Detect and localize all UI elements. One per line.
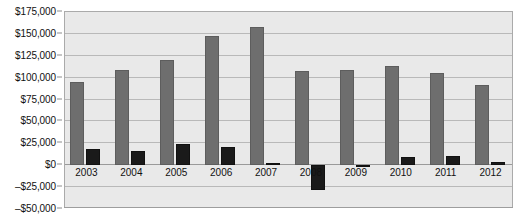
bar-net-income-2010 xyxy=(401,157,415,165)
gridline xyxy=(65,11,512,12)
x-axis-tick-label: 2007 xyxy=(255,167,277,178)
y-axis-tick-mark xyxy=(57,32,62,33)
bar-net-income-2004 xyxy=(131,151,145,165)
bar-revenue-2009 xyxy=(340,70,354,165)
gridline xyxy=(65,142,512,143)
y-axis-tick-mark xyxy=(57,186,62,187)
bar-net-income-2011 xyxy=(446,156,460,165)
x-axis-tick-label: 2010 xyxy=(390,167,412,178)
x-axis-baseline xyxy=(64,207,513,208)
bar-net-income-2007 xyxy=(266,163,280,165)
gridline xyxy=(65,186,512,187)
bar-revenue-2012 xyxy=(475,85,489,166)
bar-net-income-2003 xyxy=(86,149,100,165)
gridline xyxy=(65,33,512,34)
y-axis-tick-label: $100,000 xyxy=(15,71,56,82)
y-axis-tick-label: $0 xyxy=(45,159,56,170)
bar-net-income-2006 xyxy=(221,147,235,165)
y-axis-tick-label: $25,000 xyxy=(21,137,56,148)
bar-chart: $175,000$150,000$125,000$100,000$75,000$… xyxy=(0,0,532,221)
y-axis-tick-label: $150,000 xyxy=(15,27,56,38)
y-axis-tick-mark xyxy=(57,54,62,55)
plot-area xyxy=(64,11,513,208)
y-axis-tick-label: $125,000 xyxy=(15,49,56,60)
x-axis-tick-label: 2005 xyxy=(165,167,187,178)
y-axis-tick-mark xyxy=(57,164,62,165)
y-axis-tick-label: –$25,000 xyxy=(15,181,56,192)
bar-revenue-2005 xyxy=(160,60,174,165)
x-axis-tick-label: 2004 xyxy=(120,167,142,178)
y-axis-tick-label: –$50,000 xyxy=(15,203,56,214)
x-axis-tick-label: 2006 xyxy=(210,167,232,178)
y-axis-tick-mark xyxy=(57,11,62,12)
bar-revenue-2008 xyxy=(295,71,309,166)
bar-revenue-2011 xyxy=(430,73,444,165)
y-axis-tick-label: $75,000 xyxy=(21,93,56,104)
bar-net-income-2012 xyxy=(491,162,505,166)
bar-net-income-2005 xyxy=(176,144,190,165)
y-axis: $175,000$150,000$125,000$100,000$75,000$… xyxy=(0,0,62,221)
bar-revenue-2010 xyxy=(385,66,399,165)
bar-revenue-2007 xyxy=(250,27,264,165)
y-axis-tick-mark xyxy=(57,142,62,143)
gridline xyxy=(65,99,512,100)
gridline xyxy=(65,77,512,78)
bar-revenue-2004 xyxy=(115,70,129,165)
y-axis-tick-mark xyxy=(57,76,62,77)
gridline xyxy=(65,120,512,121)
y-axis-tick-mark xyxy=(57,120,62,121)
gridline xyxy=(65,55,512,56)
bar-revenue-2006 xyxy=(205,36,219,166)
x-axis-tick-label: 2008 xyxy=(300,167,322,178)
y-axis-tick-label: $50,000 xyxy=(21,115,56,126)
x-axis-tick-label: 2011 xyxy=(435,167,457,178)
x-axis-tick-label: 2012 xyxy=(479,167,501,178)
y-axis-tick-mark xyxy=(57,208,62,209)
y-axis-tick-mark xyxy=(57,98,62,99)
x-axis-tick-label: 2003 xyxy=(75,167,97,178)
bar-revenue-2003 xyxy=(70,82,84,165)
x-axis-tick-label: 2009 xyxy=(345,167,367,178)
y-axis-tick-label: $175,000 xyxy=(15,6,56,17)
